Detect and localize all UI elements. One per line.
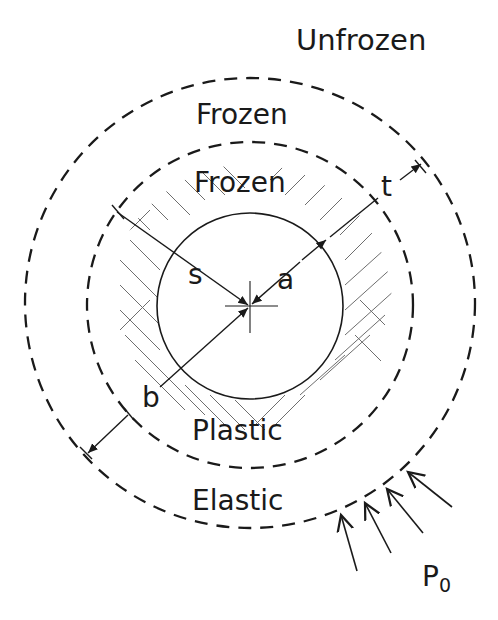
label-t: t xyxy=(381,170,392,203)
label-p: P xyxy=(422,560,439,593)
dim-b-line2 xyxy=(88,415,128,453)
dim-t-line xyxy=(330,198,378,237)
label-p-subscript: 0 xyxy=(439,574,451,596)
label-frozen-inner: Frozen xyxy=(194,166,286,199)
label-s: s xyxy=(188,258,203,291)
dim-s-line xyxy=(117,212,248,305)
label-plastic: Plastic xyxy=(192,414,283,447)
load-arrows xyxy=(341,472,452,571)
label-elastic: Elastic xyxy=(192,484,283,517)
dim-t-line2 xyxy=(400,164,421,180)
label-unfrozen: Unfrozen xyxy=(296,23,426,57)
label-a: a xyxy=(277,263,294,296)
label-p0: P0 xyxy=(422,560,451,596)
frozen-soil-diagram: Unfrozen Frozen Frozen Plastic Elastic s… xyxy=(0,0,498,620)
dim-b-line xyxy=(160,308,248,387)
dim-a-outer xyxy=(302,240,326,260)
label-frozen-outer: Frozen xyxy=(196,98,288,131)
label-b: b xyxy=(142,381,160,414)
